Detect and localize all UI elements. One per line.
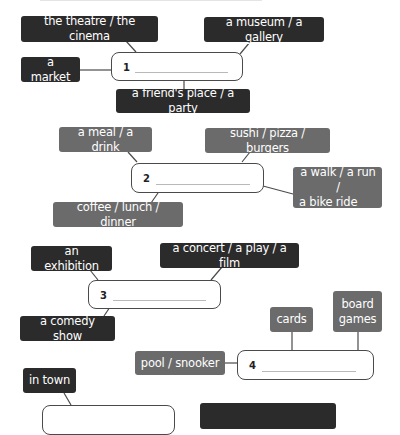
answer-number: 2 bbox=[143, 173, 150, 184]
prompt-cards: cards bbox=[270, 307, 313, 332]
prompt-friends-place-party: a friend's place / a party bbox=[116, 89, 250, 113]
prompt-market: a market bbox=[21, 57, 80, 82]
prompt-comedy-show: a comedy show bbox=[20, 316, 115, 341]
prompt-line: a walk / a run / bbox=[299, 165, 377, 195]
answer-box-4[interactable]: 4 bbox=[237, 350, 374, 380]
prompt-board-games: board games bbox=[333, 291, 382, 332]
prompt-line: games bbox=[339, 312, 377, 327]
prompt-walk-run-bike: a walk / a run / a bike ride bbox=[293, 167, 382, 208]
answer-blank[interactable] bbox=[262, 371, 356, 372]
answer-box-3[interactable]: 3 bbox=[88, 280, 221, 309]
prompt-concert-play-film: a concert / a play / a film bbox=[160, 243, 299, 268]
prompt-meal-drink: a meal / a drink bbox=[59, 127, 152, 152]
answer-number: 1 bbox=[123, 61, 130, 72]
prompt-coffee-lunch-dinner: coffee / lunch / dinner bbox=[53, 202, 183, 227]
prompt-cut-off bbox=[200, 403, 336, 429]
prompt-theatre-cinema: the theatre / the cinema bbox=[21, 16, 158, 42]
answer-box-2[interactable]: 2 bbox=[131, 163, 264, 193]
answer-number: 3 bbox=[100, 289, 107, 300]
answer-blank[interactable] bbox=[156, 184, 250, 185]
prompt-pool-snooker: pool / snooker bbox=[135, 351, 225, 375]
prompt-exhibition: an exhibition bbox=[31, 246, 112, 271]
answer-blank[interactable] bbox=[113, 300, 206, 301]
prompt-museum-gallery: a museum / a gallery bbox=[204, 17, 324, 42]
prompt-sushi-pizza-burgers: sushi / pizza / burgers bbox=[205, 128, 330, 153]
answer-box-5[interactable] bbox=[42, 405, 175, 435]
answer-blank[interactable] bbox=[135, 72, 228, 73]
answer-box-1[interactable]: 1 bbox=[111, 52, 243, 81]
prompt-in-town: in town bbox=[23, 368, 76, 393]
prompt-line: a bike ride bbox=[299, 195, 357, 210]
prompt-line: board bbox=[341, 297, 373, 312]
answer-number: 4 bbox=[249, 360, 256, 371]
